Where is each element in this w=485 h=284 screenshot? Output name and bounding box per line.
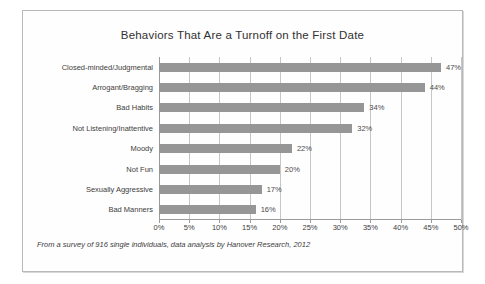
bar-row: Arrogant/Bragging44%: [159, 77, 461, 97]
chart-title: Behaviors That Are a Turnoff on the Firs…: [23, 29, 462, 41]
bar: [159, 63, 441, 72]
x-tick-label: 45%: [423, 223, 438, 232]
bar: [159, 165, 280, 174]
bar-value-label: 16%: [261, 205, 276, 214]
category-label: Closed-minded/Judgmental: [0, 63, 153, 72]
plot-area: Closed-minded/Judgmental47%Arrogant/Brag…: [159, 57, 461, 220]
bar: [159, 124, 352, 133]
bar-value-label: 47%: [446, 63, 461, 72]
x-tick-label: 50%: [453, 223, 468, 232]
x-tick-label: 15%: [242, 223, 257, 232]
category-label: Bad Habits: [0, 103, 153, 112]
bar-row: Moody22%: [159, 139, 461, 159]
x-tick-label: 25%: [302, 223, 317, 232]
category-label: Not Fun: [0, 165, 153, 174]
x-tick-label: 10%: [212, 223, 227, 232]
category-label: Moody: [0, 144, 153, 153]
x-tick-label: 0%: [154, 223, 165, 232]
category-label: Bad Manners: [0, 205, 153, 214]
bar: [159, 83, 425, 92]
bar: [159, 185, 262, 194]
bar-row: Sexually Aggressive17%: [159, 179, 461, 199]
bar-value-label: 34%: [369, 103, 384, 112]
bar-row: Closed-minded/Judgmental47%: [159, 57, 461, 77]
category-label: Sexually Aggressive: [0, 185, 153, 194]
x-tick-label: 35%: [363, 223, 378, 232]
x-tick-label: 40%: [393, 223, 408, 232]
x-tick-label: 20%: [272, 223, 287, 232]
bar-row: Bad Manners16%: [159, 200, 461, 220]
x-tick-label: 30%: [333, 223, 348, 232]
category-label: Arrogant/Bragging: [0, 83, 153, 92]
chart-annotation: From a survey of 916 single individuals,…: [37, 240, 310, 249]
bar-value-label: 32%: [357, 124, 372, 133]
gridline-50: [461, 57, 462, 220]
bar-value-label: 20%: [285, 165, 300, 174]
category-label: Not Listening/Inattentive: [0, 124, 153, 133]
bar: [159, 103, 364, 112]
bar-value-label: 17%: [267, 185, 282, 194]
bar-value-label: 44%: [430, 83, 445, 92]
bar: [159, 144, 292, 153]
x-tick-label: 5%: [184, 223, 195, 232]
bar-series: Closed-minded/Judgmental47%Arrogant/Brag…: [159, 57, 461, 220]
bar-row: Bad Habits34%: [159, 98, 461, 118]
bar-value-label: 22%: [297, 144, 312, 153]
bar-row: Not Listening/Inattentive32%: [159, 118, 461, 138]
chart-frame: Behaviors That Are a Turnoff on the Firs…: [22, 10, 463, 272]
bar-row: Not Fun20%: [159, 159, 461, 179]
bar: [159, 205, 256, 214]
